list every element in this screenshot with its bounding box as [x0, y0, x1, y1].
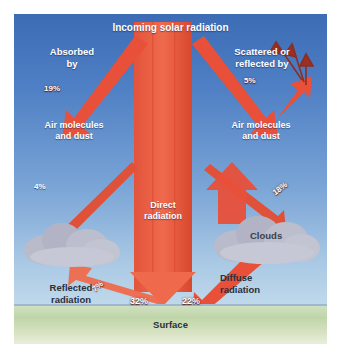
left-agent-line1: Air molecules: [22, 120, 126, 131]
absorbed-heading-line1: Absorbed: [30, 46, 114, 57]
absorbed-heading-line2: by: [30, 58, 114, 69]
diffuse-label-line1: Diffuse: [220, 272, 294, 283]
sky-panel: Clouds Surface Incoming solar radiation …: [14, 14, 327, 344]
cloud-left: [20, 219, 124, 267]
direct-surface-percent: 32%: [130, 296, 148, 306]
cloud-left-percent: 4%: [34, 182, 46, 191]
scattered-heading-line2: reflected by: [210, 58, 314, 69]
scattered-heading-line1: Scattered or: [210, 46, 314, 57]
scattered-percent: 5%: [244, 76, 256, 85]
right-agent-line1: Air molecules: [206, 120, 316, 131]
surface-label: Surface: [14, 319, 327, 330]
right-agent-line2: and dust: [206, 131, 316, 142]
diffuse-surface-percent: 22%: [182, 296, 200, 306]
reflected-label-line1: Reflected: [28, 282, 114, 293]
diffuse-label-line2: radiation: [220, 284, 294, 295]
absorbed-percent: 19%: [44, 84, 60, 93]
clouds-label: Clouds: [250, 230, 282, 241]
incoming-beam: [134, 22, 192, 292]
direct-label-line2: radiation: [126, 211, 200, 222]
reflected-label-line2: radiation: [28, 294, 114, 305]
left-agent-line2: and dust: [22, 131, 126, 142]
solar-radiation-diagram: Clouds Surface Incoming solar radiation …: [0, 0, 341, 358]
direct-label-line1: Direct: [132, 200, 194, 211]
title-label: Incoming solar radiation: [14, 22, 327, 34]
